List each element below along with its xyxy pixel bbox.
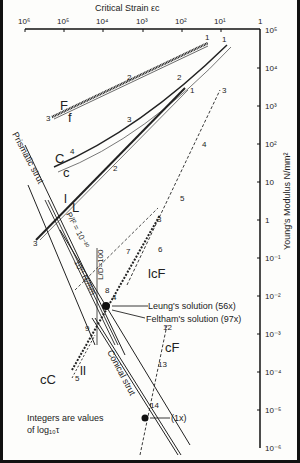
one-x-point	[142, 415, 149, 422]
feltham-arrow	[112, 310, 145, 318]
y-tick-10: 10⁻⁵	[265, 406, 281, 415]
num-L3: 3	[33, 239, 38, 248]
prismatic-strut-line-2	[28, 185, 95, 345]
y-tick-3: 10²	[265, 140, 277, 149]
label-C: C	[55, 151, 64, 166]
series-lcF	[127, 90, 220, 285]
y-tick-8: 10⁻³	[265, 330, 281, 339]
num-C1: 1	[222, 35, 227, 44]
label-lcF: lcF	[148, 266, 165, 281]
y-tick-6: 10⁻¹	[265, 254, 281, 263]
label-prismatic-strut: Prismatic strut	[10, 130, 46, 185]
label-feltham: Feltham's solution (97x)	[146, 314, 241, 324]
num-ll5: 5	[75, 374, 80, 383]
label-c: c	[63, 165, 70, 180]
x-tick-1: 10⁵	[57, 17, 69, 26]
num-F2: 2	[127, 73, 132, 82]
conical-strut-line-2	[95, 318, 181, 455]
num-F1: 1	[205, 33, 210, 42]
label-leung: Leung's solution (56x)	[148, 301, 236, 311]
x-tick-3: 10³	[136, 17, 148, 26]
y-tick-5: 1	[265, 216, 270, 225]
num-cC7: 7	[126, 247, 131, 256]
leung-feltham-point	[102, 302, 110, 310]
num-cC4: 4	[112, 293, 117, 302]
num-lcF5: 5	[180, 194, 185, 203]
x-tick-2: 10⁴	[96, 17, 109, 26]
num-cF12: 12	[163, 323, 172, 332]
label-F: F	[60, 98, 68, 113]
label-ll: ll	[80, 363, 86, 378]
num-C2: 2	[177, 73, 182, 82]
note-line-2: of log₁₀τ	[27, 425, 60, 435]
chart-svg: 10⁶ 10⁵ 10⁴ 10³ 10² 10¹ 1 Critical Strai…	[0, 0, 300, 463]
num-lcF4: 4	[202, 140, 207, 149]
x-tick-5: 10¹	[214, 17, 226, 26]
y-tick-2: 10³	[265, 102, 277, 111]
num-cF14: 14	[150, 401, 159, 410]
series-lcF-2	[75, 208, 158, 290]
x-axis-title: Critical Strain εc	[95, 3, 160, 13]
y-tick-9: 10⁻⁴	[265, 368, 282, 377]
num-cC9: 9	[85, 324, 90, 333]
y-tick-4: 10	[265, 178, 274, 187]
label-conical-strut: Conical strut	[105, 348, 138, 397]
x-tick-4: 10²	[175, 17, 187, 26]
y-tick-0: 10⁵	[265, 26, 277, 35]
label-l: l	[64, 191, 67, 206]
num-L1: 1	[190, 86, 195, 95]
num-cC8: 8	[105, 286, 110, 295]
x-tick-0: 10⁶	[18, 17, 30, 26]
y-tick-11: 10⁻⁶	[265, 444, 281, 453]
label-cF: cF	[165, 340, 180, 355]
label-nmm: 10¹¹ N/mm	[72, 259, 98, 297]
num-cF13: 13	[158, 360, 167, 369]
label-cC: cC	[40, 372, 56, 387]
y-tick-1: 10⁴	[265, 64, 278, 73]
x-tick-6: 1	[258, 17, 263, 26]
num-lcF3: 3	[222, 86, 227, 95]
num-C4: 4	[70, 147, 75, 156]
num-F3: 3	[46, 114, 51, 123]
label-f: f	[68, 110, 72, 125]
series-cF	[140, 325, 167, 455]
num-cC3: 3	[157, 215, 162, 224]
note-line-1: Integers are values	[27, 413, 104, 423]
label-one-x: (1x)	[171, 413, 187, 423]
y-tick-7: 10⁻²	[265, 292, 281, 301]
num-C3: 3	[127, 115, 132, 124]
y-axis-title: Young's Modulus N/mm²	[282, 153, 292, 250]
num-lcF6: 6	[158, 245, 163, 254]
